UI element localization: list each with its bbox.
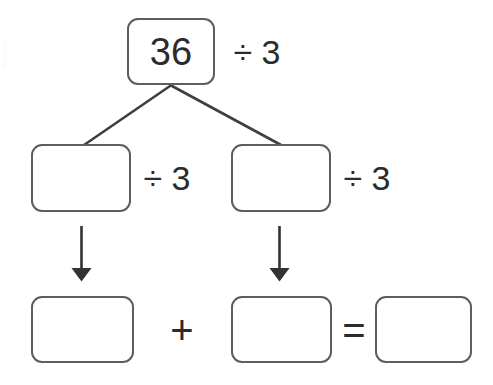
divisor-label-left: ÷ 3 [137,159,197,197]
branch-line-right [172,86,281,145]
quotient-box-right[interactable] [231,296,332,363]
answer-box[interactable] [375,296,472,363]
division-decomposition-worksheet: 36 ÷ 3 ÷ 3 ÷ 3 + = [0,0,493,385]
part-box-left[interactable] [31,144,131,212]
divisor-label-right: ÷ 3 [337,159,397,197]
branch-line-left [84,86,170,145]
divisor-label-top: ÷ 3 [226,33,288,71]
dividend-box[interactable]: 36 [127,18,215,85]
equals-sign: = [338,310,370,350]
quotient-box-left[interactable] [31,296,134,363]
plus-sign: + [162,310,202,350]
part-box-right[interactable] [231,144,331,212]
